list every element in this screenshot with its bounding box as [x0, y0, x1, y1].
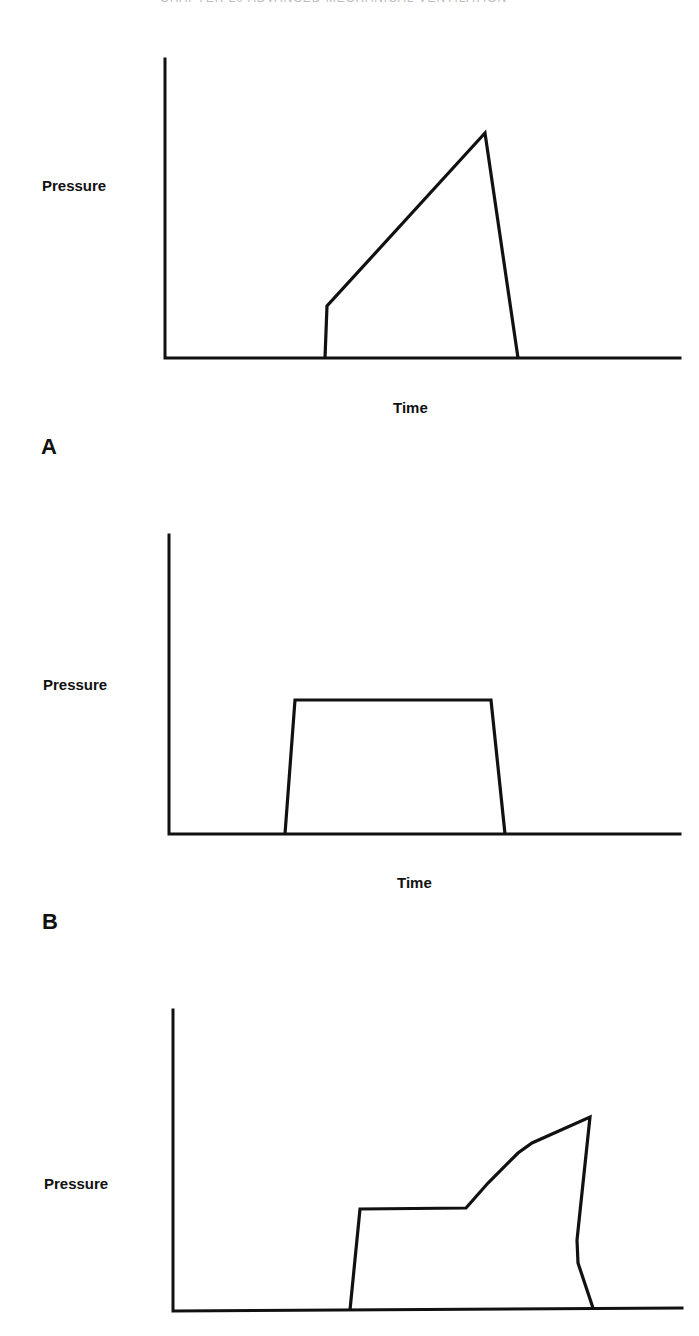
- chart-c: [173, 1010, 682, 1311]
- waveform-plots: [0, 0, 699, 1336]
- pressure-waveform: [325, 133, 518, 358]
- axes: [173, 1010, 682, 1311]
- axes: [169, 535, 680, 834]
- axes: [165, 59, 680, 358]
- pressure-waveform: [350, 1117, 593, 1310]
- chart-a: [165, 59, 680, 358]
- pressure-waveform: [285, 700, 505, 834]
- chart-b: [169, 535, 680, 834]
